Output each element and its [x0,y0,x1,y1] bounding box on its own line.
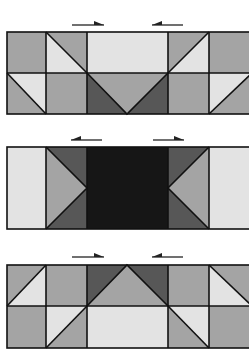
medium-patch [46,73,87,114]
medium-patch [7,32,46,73]
arrow-right-icon [72,21,104,25]
medium-patch [7,306,46,348]
medium-patch [209,306,249,348]
top-panel [7,21,249,114]
light-patch [87,306,168,348]
bottom-panel [7,253,249,348]
light-patch [7,147,46,229]
middle-panel [7,136,249,229]
quilt-block-diagram [0,0,249,363]
black-patch [87,147,168,229]
light-patch [87,32,168,73]
arrow-right-icon [153,136,184,140]
arrow-left-icon [152,253,183,257]
light-patch [209,147,249,229]
arrow-left-icon [152,21,183,25]
medium-patch [168,265,209,306]
medium-patch [209,32,249,73]
medium-patch [46,265,87,306]
arrow-left-icon [71,136,102,140]
medium-patch [168,73,209,114]
arrow-right-icon [72,253,104,257]
diagram-canvas [0,0,249,363]
